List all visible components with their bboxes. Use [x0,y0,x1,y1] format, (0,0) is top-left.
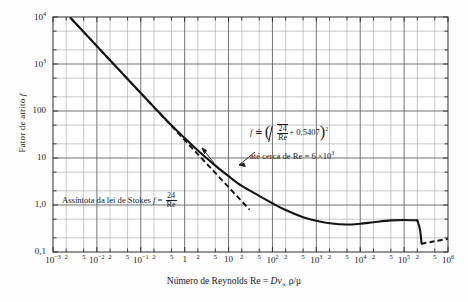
stokes-equals: = [158,195,163,205]
formula-lhs: f [250,127,252,137]
range-note-exponent: 3 [331,150,334,156]
x-tick-label-decade: 1 [178,254,192,264]
y-tick-label: 10 [6,152,46,162]
annotation-drag-formula: f ≐ (24Re+ 0,5407)2 [250,124,328,143]
x-tick-label-minor: 5 [166,253,176,261]
x-axis-title-sub: ∞ [282,281,287,288]
x-axis-title-prefix: Número de Reynolds Re = [167,276,268,286]
formula-denominator: Re [277,133,288,142]
y-tick-label: 103 [6,58,46,69]
x-tick-label-minor: 2 [149,253,159,261]
x-tick-label-minor: 2 [325,253,335,261]
x-tick-label-minor: 2 [237,253,247,261]
stokes-lhs: f [153,195,155,205]
formula-addend: + 0,5407 [289,127,320,137]
x-axis-title: Número de Reynolds Re = Dv∞ ρ/μ [0,276,468,288]
range-note-prefix: até cerca de Re = [250,151,309,161]
x-tick-label-minor: 2 [105,253,115,261]
range-note-base: 10 [323,151,332,161]
x-tick-label-minor: 2 [61,253,71,261]
formula-approx-sign: ≐ [255,127,263,137]
x-tick-label-decade: 10 [220,254,238,264]
stokes-fraction: 24Re [166,192,177,210]
range-note-coefficient: 6 × [311,151,322,161]
stokes-numerator: 24 [166,192,177,200]
drag-coefficient-chart: Fator de atrito f Número de Reynolds Re … [0,0,468,302]
formula-numerator: 24 [277,125,288,133]
x-axis-title-rest: ρ/μ [289,276,301,286]
x-axis-title-symbol: Dv [271,276,282,286]
y-tick-label: 100 [6,105,46,115]
formula-paren-close: ) [320,126,325,138]
y-axis-title: Fator de atrito f [17,63,27,183]
annotation-stokes-law: Assíntota da lei de Stokes f = 24Re [62,192,178,210]
annotation-range-note: até cerca de Re = 6 ×103 [250,150,334,162]
x-tick-label-minor: 2 [412,253,422,261]
y-tick-label: 1,0 [6,199,46,209]
x-tick-label-minor: 2 [281,253,291,261]
x-tick-label-decade: 106 [437,254,459,265]
y-axis-title-symbol: f [17,93,27,96]
formula-exponent: 2 [325,126,328,132]
formula-sqrt: 24Re [270,124,289,143]
stokes-note-prefix: Assíntota da lei de Stokes [62,195,151,205]
x-tick-label-minor: 2 [368,253,378,261]
stokes-denominator: Re [166,200,177,209]
x-tick-label-minor: 2 [193,253,203,261]
y-tick-label: 0,1 [6,246,46,256]
y-tick-label: 104 [6,11,46,22]
